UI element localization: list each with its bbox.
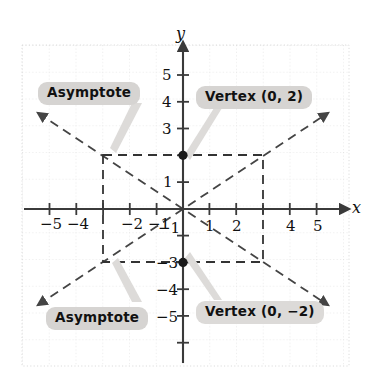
x-tick-label-1: 1 (205, 217, 215, 235)
y-tick-label-4: 4 (162, 93, 172, 111)
y-tick-label--5: −5 (156, 308, 178, 326)
y-tick-label--3: −3 (156, 254, 178, 272)
y-tick-label-1: 1 (163, 173, 173, 191)
vertex-point-top (178, 151, 187, 160)
x-tick-label-2: 2 (232, 217, 242, 235)
x-tick-label-5: 5 (313, 217, 323, 235)
callout-vertex-bottom: Vertex (0, −2) (196, 301, 324, 324)
x-axis-label: x (352, 198, 361, 217)
y-axis-label: y (176, 24, 185, 43)
y-tick-label--4: −4 (156, 281, 178, 299)
x-tick-label--2: −2 (121, 215, 143, 233)
x-tick-label--5: −5 (40, 215, 62, 233)
callout-vertex-top: Vertex (0, 2) (196, 86, 312, 109)
vertex-point-bottom (178, 258, 187, 267)
callout-asymptote-bottom: Asymptote (46, 307, 148, 330)
x-tick-label--4: −4 (67, 215, 89, 233)
x-tick-label-4: 4 (286, 217, 296, 235)
callout-asymptote-top: Asymptote (38, 82, 140, 105)
y-tick-label-5: 5 (162, 66, 172, 84)
y-tick-label-3: 3 (162, 120, 172, 138)
y-tick-label--1: −1 (158, 219, 180, 237)
graph-figure: x y −5 −4 −2 −1 1 2 4 5 5 4 3 1 −1 −3 −4… (0, 0, 379, 385)
